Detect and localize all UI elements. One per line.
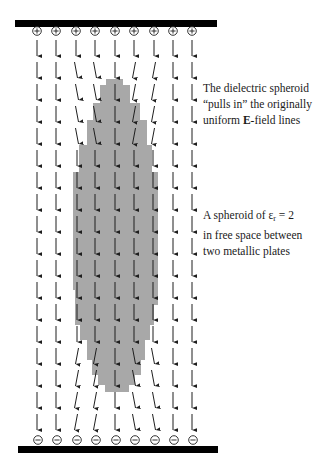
field-arrow xyxy=(152,106,155,122)
spheroid-note-line: in free space between xyxy=(203,227,302,243)
negative-charge-icon xyxy=(53,436,62,445)
spheroid-note-line: A spheroid of εr = 2 xyxy=(203,207,302,227)
pulls-in-note: The dielectric spheroid“pulls in” the or… xyxy=(203,80,312,128)
negative-charge-icon xyxy=(34,436,43,445)
field-arrow xyxy=(76,370,79,386)
negative-charge-icon xyxy=(131,436,140,445)
field-arrow xyxy=(94,62,97,78)
positive-charge-icon xyxy=(188,27,197,36)
field-arrow xyxy=(94,414,97,430)
field-arrow xyxy=(75,62,78,78)
field-arrow xyxy=(75,414,78,430)
negative-charge-icon xyxy=(170,436,179,445)
negative-charge-icon xyxy=(92,436,101,445)
field-arrow xyxy=(153,392,156,408)
top-plate xyxy=(15,20,217,27)
field-arrow xyxy=(94,392,97,408)
field-arrow xyxy=(152,128,155,144)
positive-charge-icon xyxy=(33,27,42,36)
field-arrow xyxy=(152,84,155,100)
pulls-in-note-line: The dielectric spheroid xyxy=(203,80,312,96)
field-arrow xyxy=(153,414,156,430)
spheroid-note: A spheroid of εr = 2in free space betwee… xyxy=(203,207,302,259)
field-arrow xyxy=(133,414,136,430)
negative-charge-icon xyxy=(73,436,82,445)
positive-charge-icon xyxy=(130,27,139,36)
positive-charge-icon xyxy=(111,27,120,36)
field-arrow xyxy=(152,370,155,386)
field-arrow xyxy=(94,84,97,100)
bottom-plate xyxy=(18,446,218,453)
field-arrow xyxy=(76,84,79,100)
field-arrow xyxy=(75,392,78,408)
negative-charge-icon xyxy=(189,436,198,445)
field-arrow xyxy=(133,62,136,78)
field-arrow xyxy=(76,348,79,364)
positive-charge-icon xyxy=(169,27,178,36)
field-arrow xyxy=(153,62,156,78)
spheroid-shape xyxy=(73,79,158,392)
field-arrow xyxy=(133,392,136,408)
positive-charge-icon xyxy=(52,27,61,36)
field-arrow xyxy=(133,84,136,100)
positive-charge-icon xyxy=(150,27,159,36)
negative-charge-icon xyxy=(151,436,160,445)
negative-charge-icon xyxy=(112,436,121,445)
dielectric-spheroid xyxy=(73,79,158,392)
spheroid-note-line: two metallic plates xyxy=(203,243,302,259)
field-arrow xyxy=(76,128,79,144)
pulls-in-note-line: uniform E-field lines xyxy=(203,112,312,128)
field-arrow xyxy=(152,348,155,364)
field-arrow xyxy=(76,106,79,122)
positive-charge-icon xyxy=(91,27,100,36)
pulls-in-note-line: “pulls in” the originally xyxy=(203,96,312,112)
positive-charge-icon xyxy=(72,27,81,36)
